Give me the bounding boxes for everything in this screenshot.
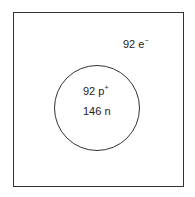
electron-label: 92 e− bbox=[123, 38, 149, 50]
neutron-count: 146 bbox=[83, 105, 101, 117]
electron-count: 92 bbox=[123, 38, 135, 50]
proton-charge: + bbox=[104, 84, 108, 91]
neutron-symbol: n bbox=[104, 105, 110, 117]
electron-charge: − bbox=[144, 37, 148, 44]
proton-count: 92 bbox=[83, 85, 95, 97]
proton-label: 92 p+ bbox=[83, 85, 109, 97]
neutron-label: 146 n bbox=[83, 105, 111, 117]
